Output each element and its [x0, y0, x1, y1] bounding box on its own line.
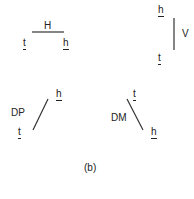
- h-panel-label: H: [44, 21, 51, 31]
- dm-panel-bottom-end: h: [151, 127, 157, 139]
- figure-caption: (b): [84, 163, 96, 173]
- dp-panel-label: DP: [11, 108, 25, 118]
- v-panel-label: V: [182, 29, 189, 39]
- v-panel-top-end: h: [158, 5, 164, 17]
- diagram-lines: [0, 0, 194, 199]
- diagonal-minus-line: [127, 99, 143, 130]
- h-panel-left-end: t: [23, 38, 26, 50]
- diagonal-plus-line: [33, 99, 48, 130]
- dp-panel-bottom-end: t: [18, 127, 21, 139]
- dm-panel-top-end: t: [133, 89, 136, 101]
- dm-panel-label: DM: [111, 113, 127, 123]
- v-panel-bottom-end: t: [158, 53, 161, 65]
- dp-panel-top-end: h: [56, 89, 62, 101]
- h-panel-right-end: h: [63, 38, 69, 50]
